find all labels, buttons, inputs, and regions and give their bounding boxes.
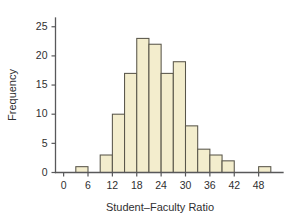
- histogram-bar: [149, 44, 161, 172]
- histogram-bar: [222, 161, 234, 173]
- y-tick-label: 25: [36, 20, 48, 32]
- x-axis-title: Student–Faculty Ratio: [106, 201, 214, 213]
- y-tick-label: 20: [36, 49, 48, 61]
- y-axis-ticks: 0510152025: [36, 20, 56, 178]
- histogram-bar: [259, 167, 271, 173]
- histogram-bar: [100, 155, 112, 172]
- histogram-figure: 0510152025 0612182430364248 Student–Facu…: [0, 0, 292, 224]
- histogram-bar: [76, 167, 88, 173]
- x-tick-label: 42: [228, 179, 240, 191]
- y-tick-label: 0: [42, 166, 48, 178]
- histogram-plot: 0510152025 0612182430364248 Student–Facu…: [0, 0, 292, 224]
- histogram-bar: [125, 73, 137, 172]
- x-tick-label: 0: [61, 179, 67, 191]
- histogram-bar: [186, 126, 198, 173]
- histogram-bar: [161, 73, 173, 172]
- bar-series: [76, 38, 271, 172]
- x-tick-label: 30: [180, 179, 192, 191]
- y-tick-label: 5: [42, 137, 48, 149]
- x-tick-label: 36: [204, 179, 216, 191]
- x-tick-label: 12: [107, 179, 119, 191]
- y-axis-title: Frequency: [6, 69, 18, 121]
- y-tick-label: 10: [36, 107, 48, 119]
- x-tick-label: 18: [131, 179, 143, 191]
- y-tick-label: 15: [36, 78, 48, 90]
- histogram-bar: [210, 155, 222, 172]
- x-axis-ticks: 0612182430364248: [61, 173, 265, 191]
- x-tick-label: 6: [85, 179, 91, 191]
- x-tick-label: 24: [155, 179, 167, 191]
- histogram-bar: [112, 114, 124, 172]
- x-tick-label: 48: [253, 179, 265, 191]
- histogram-bar: [173, 62, 185, 173]
- histogram-bar: [198, 149, 210, 172]
- histogram-bar: [137, 38, 149, 172]
